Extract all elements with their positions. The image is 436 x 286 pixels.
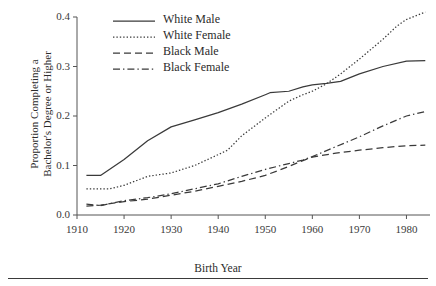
legend-item-black-male: Black Male: [112, 43, 231, 59]
series-line-white-male: [86, 61, 425, 176]
y-tick-label: 0.3: [37, 61, 70, 72]
y-tick-label: 0.4: [37, 11, 70, 22]
legend-item-black-female: Black Female: [112, 59, 231, 75]
x-tick-label: 1940: [193, 224, 243, 235]
series-line-black-female: [86, 112, 425, 206]
legend-line-swatch: [112, 61, 156, 73]
legend-item-label: Black Female: [163, 60, 229, 75]
y-tick-label: 0.0: [37, 209, 70, 220]
legend-item-label: White Male: [163, 12, 220, 27]
legend-item-label: White Female: [163, 28, 231, 43]
x-tick-label: 1960: [287, 224, 337, 235]
y-tick-label: 0.1: [37, 160, 70, 171]
legend-item-white-female: White Female: [112, 27, 231, 43]
legend-item-label: Black Male: [163, 44, 219, 59]
legend-line-swatch: [112, 29, 156, 41]
x-tick-label: 1950: [240, 224, 290, 235]
x-tick-label: 1910: [52, 224, 102, 235]
y-tick-label: 0.2: [37, 110, 70, 121]
x-axis-title: Birth Year: [0, 262, 436, 274]
legend-line-swatch: [112, 45, 156, 57]
x-tick-label: 1980: [381, 224, 431, 235]
legend-item-white-male: White Male: [112, 11, 231, 27]
legend-line-swatch: [112, 13, 156, 25]
x-tick-label: 1930: [146, 224, 196, 235]
footer-rule: [8, 278, 428, 279]
x-tick-label: 1970: [334, 224, 384, 235]
figure-container: Proportion Completing a Bachelor's Degre…: [0, 0, 436, 286]
series-line-black-male: [86, 145, 425, 206]
x-tick-label: 1920: [99, 224, 149, 235]
chart-legend: White MaleWhite FemaleBlack MaleBlack Fe…: [112, 11, 231, 75]
